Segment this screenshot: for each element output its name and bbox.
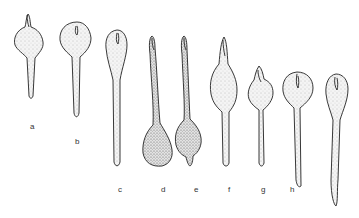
shape-a bbox=[14, 14, 43, 98]
label-a: a bbox=[30, 122, 34, 131]
shape-d bbox=[143, 36, 172, 166]
shape-i bbox=[326, 74, 348, 206]
label-g: g bbox=[261, 185, 265, 194]
figure-illustration bbox=[0, 0, 359, 218]
label-d: d bbox=[161, 185, 165, 194]
shape-b bbox=[60, 22, 91, 117]
shape-h bbox=[283, 72, 313, 187]
shape-c bbox=[106, 30, 127, 166]
shape-f bbox=[210, 37, 237, 166]
label-f: f bbox=[228, 185, 230, 194]
label-e: e bbox=[194, 185, 198, 194]
label-b: b bbox=[75, 137, 79, 146]
label-c: c bbox=[118, 185, 122, 194]
label-h: h bbox=[290, 185, 294, 194]
shape-e bbox=[175, 36, 201, 166]
shape-g bbox=[248, 66, 273, 166]
